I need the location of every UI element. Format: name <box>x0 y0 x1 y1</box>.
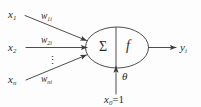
bias-label: x0=1 <box>104 94 124 107</box>
input-ellipsis: ⋮ <box>47 55 58 66</box>
threshold-symbol: θ <box>122 71 127 82</box>
weight-label-w2i: w2i <box>41 36 52 47</box>
output-label: yi <box>180 42 187 55</box>
input-label-x2: x2 <box>8 42 16 55</box>
input-label-x1: x1 <box>8 9 16 22</box>
activation-function-symbol: f <box>126 39 130 53</box>
neuron-diagram: x1 x2 xn w1i w2i wni ⋮ Σ f θ x0=1 yi <box>0 0 201 107</box>
input-label-xn: xn <box>8 74 16 87</box>
weight-label-w1i: w1i <box>41 12 52 23</box>
summation-symbol: Σ <box>99 40 107 54</box>
neuron-body-ellipse <box>86 27 149 68</box>
weight-label-wni: wni <box>41 75 52 86</box>
connection-x1 <box>25 16 87 41</box>
